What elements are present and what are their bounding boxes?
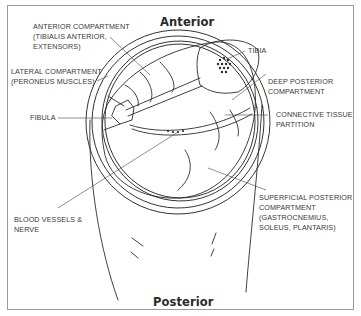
label-tibia: Tibia [248,46,266,56]
leader-deep-posterior [232,74,266,100]
posterior-heading: Posterior [153,295,214,309]
label-blood-vessels-nerve: Blood Vessels & Nerve [14,215,82,235]
leader-blood-vessels [58,132,178,208]
anterior-heading: Anterior [160,15,214,29]
label-lateral-compartment: Lateral Compartment (Peroneus Muscles) [11,67,102,87]
label-fibula: Fibula [30,113,56,123]
label-anterior-compartment: Anterior Compartment (Tibialis Anterior,… [33,22,130,52]
label-connective-tissue-partition: Connective Tissue Partition [276,110,353,130]
label-superficial-posterior-compartment: Superficial Posterior Compartment (Gastr… [259,193,352,233]
label-deep-posterior-compartment: Deep Posterior Compartment [268,77,333,97]
